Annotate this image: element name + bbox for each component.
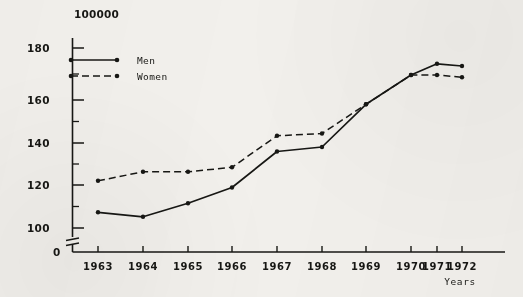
x-axis-title: Years [444,276,476,287]
legend-swatch-men [69,58,120,63]
x-tick-label-1964: 1964 [128,261,158,272]
axis-lines [66,38,505,252]
x-tick-label-1968: 1968 [307,261,337,272]
data-point-men-1964 [141,215,145,219]
chart-figure: 100000 180 [0,0,523,297]
data-point-women-1967 [275,134,279,138]
data-point-men-1972 [460,64,464,68]
x-axis-tick-labels: 1963196419651966196719681969197019711972 [83,261,477,272]
data-point-women-1964 [141,170,145,174]
data-point-women-1963 [96,179,100,183]
data-point-men-1968 [320,145,324,149]
data-point-women-1971 [435,73,439,77]
y-tick-label-120: 120 [27,179,50,191]
x-tick-label-1969: 1969 [351,261,381,272]
series-women [96,73,464,183]
y-tick-label-0: 0 [53,246,61,258]
y-tick-label-140: 140 [27,137,50,149]
line-chart-svg: 100000 180 [0,0,523,297]
data-point-men-1966 [230,185,234,189]
x-tick-label-1967: 1967 [262,261,292,272]
data-point-women-1970 [409,73,413,77]
axis-break-mark-upper [66,238,79,241]
series-men [96,62,464,219]
y-axis-tick-labels: 180 160 140 120 100 0 [27,42,61,258]
x-tick-label-1963: 1963 [83,261,113,272]
data-series-layer [96,62,464,219]
x-tick-label-1972: 1972 [447,261,477,272]
data-point-women-1972 [460,75,464,79]
series-line-men [98,64,462,217]
x-tick-label-1965: 1965 [173,261,203,272]
legend-label-men: Men [137,55,155,66]
data-point-women-1965 [186,170,190,174]
data-point-women-1966 [230,165,234,169]
data-point-men-1971 [435,62,439,66]
legend-label-women: Women [137,71,168,82]
data-point-men-1967 [275,149,279,153]
y-tick-label-100: 100 [27,222,50,234]
x-tick-label-1966: 1966 [217,261,247,272]
y-axis-ticks [73,48,85,228]
data-point-women-1969 [364,102,368,106]
chart-legend: Men Women [69,55,168,82]
y-axis-unit-header: 100000 [74,8,119,20]
x-axis-ticks [98,246,462,252]
series-line-women [98,75,462,181]
data-point-men-1965 [186,201,190,205]
y-tick-label-160: 160 [27,94,50,106]
data-point-men-1963 [96,210,100,214]
data-point-women-1968 [320,131,324,135]
y-tick-label-180: 180 [27,42,50,54]
